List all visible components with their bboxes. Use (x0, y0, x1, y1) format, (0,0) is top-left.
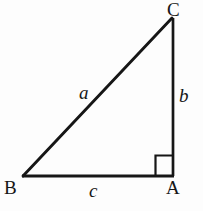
vertex-label-a: A (166, 178, 180, 197)
side-label-c: c (89, 181, 97, 200)
right-angle-marker-icon (156, 156, 174, 176)
right-triangle-figure: C B A a b c (0, 0, 203, 211)
side-label-a: a (79, 83, 89, 102)
vertex-label-b: B (4, 178, 17, 197)
vertex-label-c: C (167, 0, 180, 19)
side-label-b: b (179, 86, 189, 105)
side-a-hypotenuse-line (23, 18, 172, 176)
